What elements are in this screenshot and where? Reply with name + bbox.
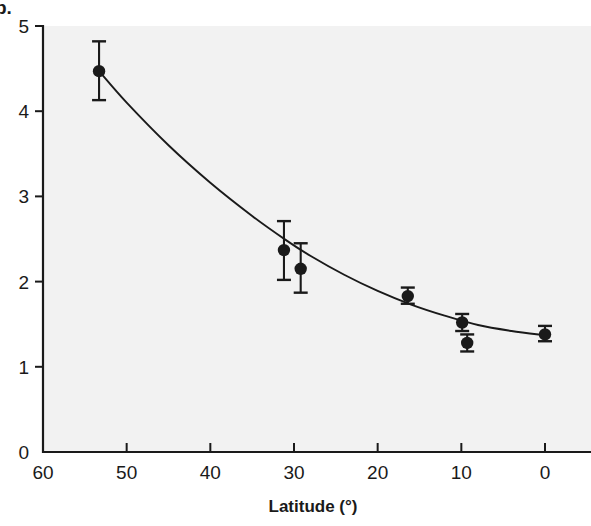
x-axis-ticks <box>127 443 545 452</box>
figure-panel: b. 012345 6050403020100 Latitude (°) <box>0 0 591 526</box>
data-point-marker <box>461 337 473 349</box>
x-tick-label: 10 <box>451 462 472 483</box>
y-tick-label: 2 <box>18 272 29 293</box>
error-bars <box>92 41 552 351</box>
scatter-chart: 012345 6050403020100 Latitude (°) <box>0 0 591 526</box>
data-points <box>93 65 551 349</box>
x-tick-label: 60 <box>32 462 53 483</box>
x-tick-label: 40 <box>200 462 221 483</box>
x-axis-tick-labels: 6050403020100 <box>32 462 550 483</box>
data-point-marker <box>456 316 468 328</box>
x-tick-label: 20 <box>367 462 388 483</box>
y-axis-ticks <box>35 26 43 367</box>
x-axis-title: Latitude (°) <box>269 497 358 516</box>
y-tick-label: 1 <box>18 357 29 378</box>
y-axis-tick-labels: 012345 <box>18 16 29 463</box>
y-tick-label: 3 <box>18 186 29 207</box>
y-tick-label: 0 <box>18 442 29 463</box>
x-tick-label: 0 <box>540 462 551 483</box>
x-tick-label: 30 <box>283 462 304 483</box>
axes <box>43 26 591 452</box>
data-point-marker <box>539 328 551 340</box>
y-tick-label: 5 <box>18 16 29 37</box>
y-tick-label: 4 <box>18 101 29 122</box>
data-point-marker <box>278 244 290 256</box>
data-point-marker <box>402 290 414 302</box>
data-point-marker <box>93 65 105 77</box>
data-point-marker <box>294 263 306 275</box>
x-tick-label: 50 <box>116 462 137 483</box>
axis-frame <box>43 26 591 452</box>
fitted-curve <box>99 71 545 335</box>
